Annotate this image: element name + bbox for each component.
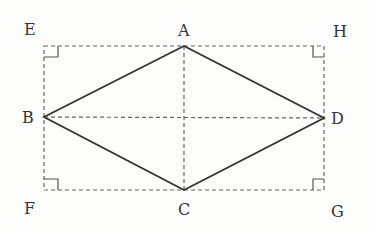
right-angle-mark-h — [313, 46, 324, 57]
geometry-diagram: E A H B D F C G — [0, 0, 370, 232]
label-f: F — [24, 199, 35, 218]
label-c: C — [178, 200, 190, 219]
label-d: D — [331, 109, 344, 128]
label-b: B — [22, 108, 34, 127]
right-angle-mark-f — [44, 179, 58, 190]
right-angle-mark-e — [44, 46, 58, 57]
label-a: A — [177, 21, 190, 40]
label-h: H — [333, 22, 347, 41]
right-angle-mark-g — [313, 179, 324, 190]
label-g: G — [331, 202, 344, 221]
label-e: E — [24, 20, 36, 39]
